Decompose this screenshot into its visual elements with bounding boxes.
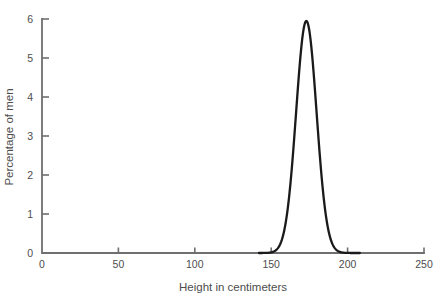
y-tick-label: 2 xyxy=(27,169,33,181)
chart-canvas: 0123456050100150200250 Percentage of men… xyxy=(0,0,446,300)
x-tick-label: 150 xyxy=(262,258,280,270)
x-axis-title: Height in centimeters xyxy=(179,281,287,293)
y-axis-title: Percentage of men xyxy=(3,88,15,185)
x-tick-label: 0 xyxy=(39,258,45,270)
x-tick-label: 250 xyxy=(415,258,433,270)
x-tick-label: 50 xyxy=(113,258,125,270)
y-tick-label: 5 xyxy=(27,52,33,64)
tick-marks xyxy=(42,19,424,253)
y-tick-label: 6 xyxy=(27,13,33,25)
tick-labels: 0123456050100150200250 xyxy=(27,13,433,271)
axes xyxy=(42,19,424,253)
x-tick-label: 200 xyxy=(339,258,357,270)
distribution-curve xyxy=(259,21,360,253)
axis-spines xyxy=(42,19,424,253)
y-tick-label: 1 xyxy=(27,208,33,220)
y-tick-label: 4 xyxy=(27,91,33,103)
normal-curve xyxy=(259,21,360,253)
y-tick-label: 3 xyxy=(27,130,33,142)
y-tick-label: 0 xyxy=(27,247,33,259)
x-tick-label: 100 xyxy=(186,258,204,270)
height-distribution-figure: 0123456050100150200250 Percentage of men… xyxy=(0,0,446,300)
